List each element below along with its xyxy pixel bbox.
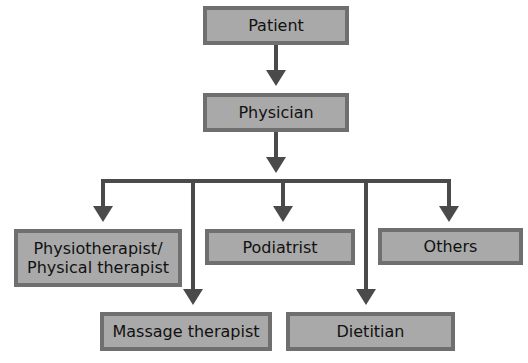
node-label: Podiatrist <box>242 238 317 257</box>
node-label: Patient <box>248 16 304 35</box>
node-label-line1: Physiotherapist/ <box>33 239 162 258</box>
arrow-head-icon <box>93 206 113 222</box>
arrow-head-icon <box>356 289 376 305</box>
node-label: Others <box>424 237 478 256</box>
arrow-head-icon <box>183 289 203 305</box>
node-label: Dietitian <box>337 322 405 341</box>
node-label: Massage therapist <box>112 322 259 341</box>
node-physician: Physician <box>203 93 349 132</box>
arrow-head-icon <box>439 206 459 222</box>
node-physiotherapist: Physiotherapist/ Physical therapist <box>14 229 182 287</box>
arrow-head-icon <box>266 70 286 86</box>
node-label: Physician <box>238 103 313 122</box>
connector-lines <box>0 0 528 363</box>
node-dietitian: Dietitian <box>286 312 455 351</box>
node-label-line2: Physical therapist <box>27 258 169 277</box>
arrow-head-icon <box>266 157 286 173</box>
node-massage-therapist: Massage therapist <box>100 312 272 351</box>
node-patient: Patient <box>203 6 349 45</box>
node-others: Others <box>378 228 523 265</box>
node-podiatrist: Podiatrist <box>205 229 355 265</box>
arrow-head-icon <box>273 206 293 222</box>
